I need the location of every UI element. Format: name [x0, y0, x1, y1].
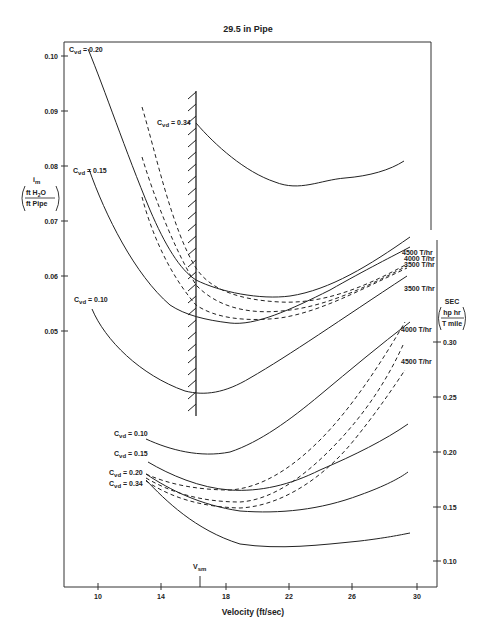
- curve-upper-cvd-034: [196, 123, 404, 186]
- y-right-tick-label: 0.15: [443, 504, 457, 511]
- y-right-tick-label: 0.20: [443, 449, 457, 456]
- vsm-marker: Vsm: [193, 563, 206, 587]
- curve-lower-cvd-034: [146, 480, 410, 547]
- y-left-tick-label: 0.06: [44, 273, 58, 280]
- curve-lower-3500: [146, 322, 405, 490]
- x-tick-label: 30: [413, 593, 421, 600]
- x-tick-label: 22: [285, 593, 293, 600]
- curve-upper-cvd-020: [88, 49, 410, 297]
- x-tick-label: 18: [222, 593, 230, 600]
- upper-cvd-curves: [88, 49, 410, 393]
- curve-lower-cvd-010: [146, 322, 410, 454]
- right-y-axis-label: SEC hp hr T mile: [439, 298, 466, 330]
- curve-lower-cvd-015: [148, 424, 408, 490]
- label-lower-3500: 3500 T/hr: [404, 285, 435, 292]
- label-upper-cvd-020: Cvd = 0.20: [69, 46, 103, 55]
- curve-upper-4500: [142, 107, 407, 302]
- chart: 29.5 in Pipe 0.10 0.09 0.08 0.07 0.06 0.…: [0, 0, 485, 639]
- y-right-tick-label: 0.10: [443, 558, 457, 565]
- label-upper-cvd-010: Cvd = 0.10: [74, 296, 108, 305]
- label-lower-cvd-020: Cvd = 0.20: [109, 469, 143, 478]
- upper-cvd-labels: Cvd = 0.20 Cvd = 0.15 Cvd = 0.10 Cvd = 0…: [69, 46, 191, 305]
- left-axis-numerator: ft H2O: [26, 189, 46, 198]
- upper-rate-labels: 4500 T/hr 4000 T/hr 3500 T/hr: [402, 249, 435, 268]
- label-lower-4500: 4500 T/hr: [401, 358, 432, 365]
- sec-label: SEC: [445, 298, 459, 305]
- label-upper-cvd-034: Cvd = 0.34: [157, 119, 191, 128]
- svg-text:im: im: [33, 176, 40, 185]
- plot-frame: [64, 42, 437, 587]
- label-upper-3500: 3500 T/hr: [404, 261, 435, 268]
- right-axis-numerator: hp hr: [443, 309, 461, 317]
- label-lower-4000: 4000 T/hr: [401, 326, 432, 333]
- y-left-tick-label: 0.09: [44, 108, 58, 115]
- right-axis-denominator: T mile: [442, 320, 462, 327]
- curve-lower-cvd-020: [146, 472, 408, 512]
- y-left-tick-label: 0.07: [44, 218, 58, 225]
- y-right-tick-label: 0.30: [443, 339, 457, 346]
- svg-text:Vsm: Vsm: [193, 563, 206, 572]
- x-tick-label: 26: [348, 593, 356, 600]
- chart-title: 29.5 in Pipe: [223, 24, 273, 34]
- y-left-tick-label: 0.05: [44, 328, 58, 335]
- label-lower-cvd-010: Cvd = 0.10: [114, 430, 148, 439]
- y-left-tick-label: 0.10: [44, 53, 58, 60]
- x-tick-label: 14: [157, 593, 165, 600]
- lower-cvd-curves: [146, 322, 410, 547]
- label-lower-cvd-034: Cvd = 0.34: [109, 480, 143, 489]
- curve-upper-cvd-010: [92, 276, 407, 393]
- upper-rate-curves: [142, 107, 407, 319]
- deposition-limit-hatched-line: [188, 91, 196, 416]
- label-upper-cvd-015: Cvd = 0.15: [73, 167, 107, 176]
- x-axis: 10 14 18 22 26 30 Velocity (ft/sec): [94, 583, 421, 617]
- y-right-tick-label: 0.25: [443, 394, 457, 401]
- label-lower-cvd-015: Cvd = 0.15: [114, 450, 148, 459]
- left-axis-denominator: ft Pipe: [26, 200, 47, 208]
- curve-upper-cvd-015: [89, 169, 410, 323]
- x-tick-label: 10: [94, 593, 102, 600]
- y-left-tick-label: 0.08: [44, 163, 58, 170]
- left-y-axis-label: im ft H2O ft Pipe: [22, 176, 59, 211]
- curve-lower-4000: [146, 345, 403, 502]
- x-axis-label: Velocity (ft/sec): [222, 607, 285, 617]
- lower-cvd-labels: Cvd = 0.10 Cvd = 0.15 Cvd = 0.20 Cvd = 0…: [109, 430, 148, 489]
- curve-upper-4000: [142, 157, 407, 312]
